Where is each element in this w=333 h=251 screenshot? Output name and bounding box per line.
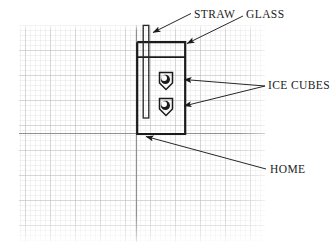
label-ice-cubes: ICE CUBES: [268, 80, 330, 92]
label-glass: GLASS: [246, 9, 284, 21]
label-straw: STRAW: [194, 9, 235, 21]
diagram-canvas: STRAW GLASS ICE CUBES HOME: [0, 0, 333, 251]
figure-svg: [0, 0, 333, 251]
label-home: HOME: [270, 164, 305, 176]
